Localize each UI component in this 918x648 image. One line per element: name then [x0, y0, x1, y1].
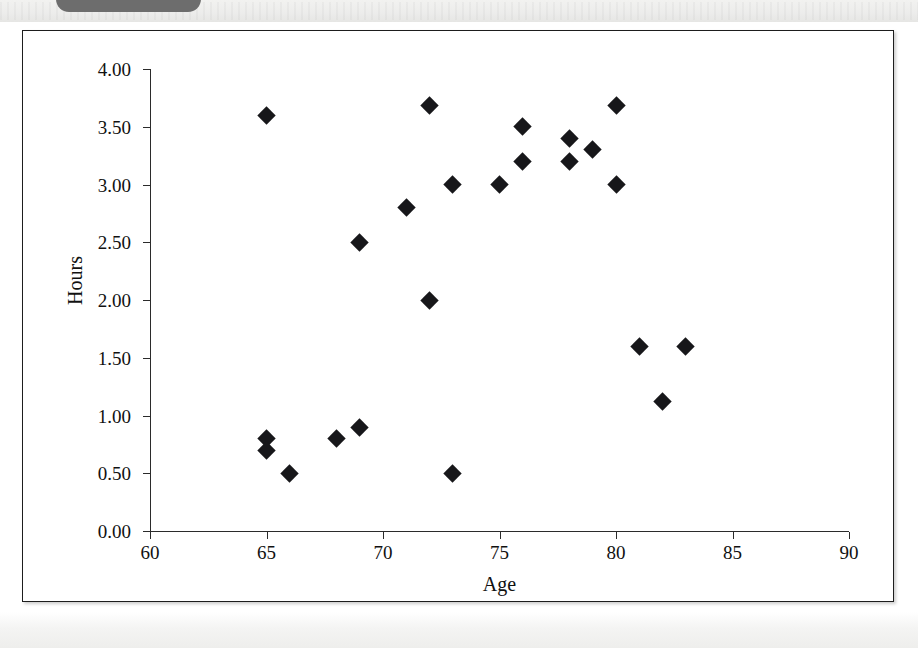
page-footer-band [0, 612, 918, 648]
y-axis-tick-label: 1.50 [31, 349, 131, 368]
data-point-marker [257, 106, 275, 124]
y-axis-tick-label: 4.00 [31, 60, 131, 79]
data-point-marker [514, 118, 532, 136]
x-axis-tick-label: 85 [703, 543, 763, 562]
x-axis-tick-label: 75 [470, 543, 530, 562]
y-axis-tick-label: 1.00 [31, 407, 131, 426]
y-axis-tick-label: 3.50 [31, 118, 131, 137]
y-axis-line [150, 69, 151, 532]
x-axis-tick-label: 80 [586, 543, 646, 562]
data-point-marker [490, 175, 508, 193]
x-axis-tick [733, 532, 734, 539]
y-axis-tick-label: 3.00 [31, 176, 131, 195]
x-axis-title: Age [150, 573, 849, 596]
x-axis-tick-label: 60 [120, 543, 180, 562]
data-point-marker [420, 291, 438, 309]
data-point-marker [560, 129, 578, 147]
x-axis-tick [150, 532, 151, 539]
x-axis-tick-label: 90 [819, 543, 879, 562]
y-axis-tick-label: 0.00 [31, 522, 131, 541]
y-axis-tick-label: 2.00 [31, 291, 131, 310]
x-axis-tick [500, 532, 501, 539]
figure-frame: Hours Age 0.000.501.001.502.002.503.003.… [22, 30, 894, 602]
y-axis-tick [143, 185, 150, 186]
y-axis-tick [143, 358, 150, 359]
data-point-marker [281, 464, 299, 482]
data-point-marker [420, 97, 438, 115]
y-axis-tick [143, 531, 150, 532]
data-point-marker [653, 392, 671, 410]
data-point-marker [607, 175, 625, 193]
page-header-band [0, 0, 918, 22]
page-tab[interactable] [56, 0, 201, 12]
scatter-plot: Hours Age 0.000.501.001.502.002.503.003.… [23, 31, 893, 601]
data-point-marker [514, 152, 532, 170]
data-point-marker [257, 441, 275, 459]
x-axis-tick-label: 70 [353, 543, 413, 562]
data-point-marker [583, 141, 601, 159]
data-point-marker [444, 464, 462, 482]
data-point-marker [444, 175, 462, 193]
data-point-marker [677, 337, 695, 355]
data-point-marker [327, 429, 345, 447]
data-point-marker [350, 418, 368, 436]
y-axis-tick [143, 416, 150, 417]
y-axis-tick [143, 242, 150, 243]
x-axis-tick [383, 532, 384, 539]
x-axis-tick [616, 532, 617, 539]
y-axis-tick [143, 69, 150, 70]
y-axis-tick [143, 127, 150, 128]
data-point-marker [630, 337, 648, 355]
x-axis-tick-label: 65 [237, 543, 297, 562]
y-axis-tick-label: 0.50 [31, 464, 131, 483]
data-point-marker [607, 97, 625, 115]
x-axis-tick [849, 532, 850, 539]
y-axis-tick-label: 2.50 [31, 233, 131, 252]
data-point-marker [397, 198, 415, 216]
data-point-marker [560, 152, 578, 170]
y-axis-tick [143, 300, 150, 301]
x-axis-tick [267, 532, 268, 539]
y-axis-tick [143, 473, 150, 474]
data-point-marker [350, 233, 368, 251]
